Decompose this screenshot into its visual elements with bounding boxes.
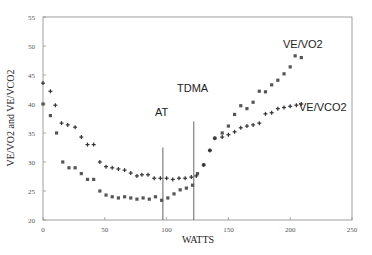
ve-vo2-point: [61, 160, 64, 163]
ve-vo2-point: [154, 195, 157, 198]
ve-vco2-point: [146, 173, 150, 177]
ve-vo2-point: [74, 166, 77, 169]
tdma-label: TDMA: [177, 82, 209, 94]
ve-vco2-point: [226, 133, 230, 137]
ve-vo2-point: [227, 124, 230, 127]
ve-vo2-point: [55, 131, 58, 134]
y-tick-label: 30: [28, 159, 36, 167]
ve-vo2-point: [117, 196, 120, 199]
ve-vco2-point: [129, 171, 133, 175]
ve-vo2-point: [111, 195, 114, 198]
ve-vo2-point: [300, 56, 303, 59]
ve-vo2-point: [289, 65, 292, 68]
x-tick-label: 100: [161, 226, 172, 234]
ve-vco2-point: [66, 123, 70, 127]
ve-vco2-point: [263, 112, 267, 116]
ve-vo2-point: [86, 178, 89, 181]
y-axis-title: VE/VO2 and VE/VCO2: [5, 69, 16, 166]
x-tick-label: 200: [285, 226, 296, 234]
ve-vco2-point: [183, 176, 187, 180]
ve-vco2-point: [245, 124, 249, 128]
ve-vo2-point: [221, 131, 224, 134]
ve-vco2-point: [251, 123, 255, 127]
ve-vco2-point: [92, 143, 96, 147]
ve-vo2-point: [264, 90, 267, 93]
ve-vo2-point: [252, 101, 255, 104]
ve-vco2-point: [282, 105, 286, 109]
x-axis-title: WATTS: [182, 234, 214, 245]
ve-vo2-point: [276, 79, 279, 82]
y-tick-label: 25: [28, 188, 36, 196]
ve-vo2-point: [233, 113, 236, 116]
ve-vo2-label: VE/VO2: [283, 38, 323, 50]
x-axis: 050100150200250: [41, 217, 358, 234]
ve-vco2-point: [239, 126, 243, 130]
ve-vco2-point: [41, 81, 45, 85]
ve-vco2-point: [53, 103, 57, 107]
ve-vo2-point: [129, 196, 132, 199]
x-tick-label: 150: [223, 226, 234, 234]
y-tick-label: 40: [28, 101, 36, 109]
ve-vco2-point: [220, 135, 224, 139]
ve-vco2-point: [152, 176, 156, 180]
ve-vo2-point: [104, 193, 107, 196]
ve-vco2-point: [85, 143, 89, 147]
y-tick-label: 35: [28, 130, 36, 138]
ve-vo2-point: [185, 187, 188, 190]
ve-vo2-point: [160, 199, 163, 202]
y-tick-label: 50: [28, 43, 36, 51]
ve-vo2-point: [294, 54, 297, 57]
x-tick-label: 250: [347, 226, 358, 234]
series-ve-vco2: [41, 81, 303, 181]
ve-vo2-point: [67, 166, 70, 169]
ve-vco2-point: [177, 176, 181, 180]
ve-vo2-point: [270, 83, 273, 86]
chart: 2025303540455055 050100150200250 WATTS V…: [0, 0, 372, 255]
ve-vco2-point: [73, 125, 77, 129]
ve-vco2-label: VE/VCO2: [299, 101, 347, 113]
at-label: AT: [155, 106, 169, 118]
ve-vo2-point: [148, 198, 151, 201]
ve-vo2-point: [142, 196, 145, 199]
ve-vco2-point: [171, 177, 175, 181]
ve-vco2-point: [123, 168, 127, 172]
ve-vco2-point: [165, 176, 169, 180]
ve-vco2-point: [233, 130, 237, 134]
ve-vco2-point: [48, 89, 52, 93]
y-tick-label: 45: [28, 72, 36, 80]
x-tick-label: 50: [101, 226, 109, 234]
ve-vco2-point: [79, 135, 83, 139]
ve-vco2-point: [104, 165, 108, 169]
ve-vo2-point: [80, 172, 83, 175]
ve-vco2-point: [60, 121, 64, 125]
ve-vo2-point: [135, 198, 138, 201]
ve-vo2-point: [92, 178, 95, 181]
y-tick-label: 20: [28, 217, 36, 225]
ve-vo2-point: [245, 107, 248, 110]
ve-vco2-point: [294, 103, 298, 107]
ve-vo2-point: [98, 189, 101, 192]
ve-vo2-point: [239, 104, 242, 107]
ve-vco2-point: [116, 167, 120, 171]
x-tick-label: 0: [41, 226, 45, 234]
ve-vo2-point: [166, 196, 169, 199]
ve-vo2-point: [179, 188, 182, 191]
ve-vco2-point: [98, 160, 102, 164]
ve-vco2-point: [270, 111, 274, 115]
ve-vo2-point: [49, 114, 52, 117]
ve-vo2-point: [191, 184, 194, 187]
ve-vo2-point: [123, 195, 126, 198]
ve-vo2-point: [41, 102, 44, 105]
ve-vco2-point: [288, 104, 292, 108]
ve-vco2-point: [276, 107, 280, 111]
ve-vco2-point: [158, 176, 162, 180]
ve-vco2-point: [110, 166, 114, 170]
ve-vo2-point: [172, 192, 175, 195]
ve-vco2-point: [135, 174, 139, 178]
y-tick-label: 55: [28, 14, 36, 22]
ve-vco2-point: [257, 121, 261, 125]
ve-vo2-point: [258, 90, 261, 93]
ve-vo2-point: [282, 72, 285, 75]
ve-vco2-point: [140, 173, 144, 177]
ve-vco2-point: [189, 175, 193, 179]
